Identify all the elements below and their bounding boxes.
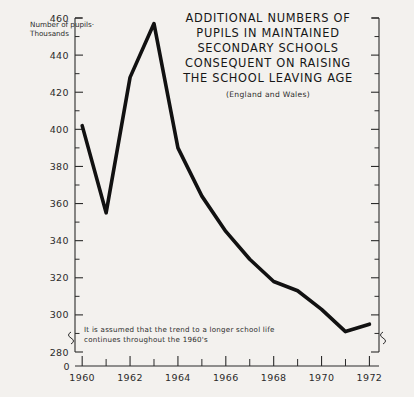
annotation-line-1: It is assumed that the trend to a longer…	[84, 325, 275, 334]
title-line-4: CONSEQUENT ON RAISING	[185, 56, 351, 70]
y-tick-label-440: 440	[50, 50, 69, 61]
y-axis-caption-line-1: Number of pupils·	[30, 20, 94, 29]
x-tick-label-1970: 1970	[309, 372, 335, 383]
y-tick-label-340: 340	[50, 235, 69, 246]
line-chart: 280300320340360380400420440460 0 Number …	[0, 0, 414, 397]
x-tick-label-1964: 1964	[165, 372, 191, 383]
title-line-5: THE SCHOOL LEAVING AGE	[182, 71, 353, 85]
title-line-2: PUPILS IN MAINTAINED	[196, 26, 339, 40]
y-tick-label-300: 300	[50, 309, 69, 320]
chart-container: 280300320340360380400420440460 0 Number …	[0, 0, 414, 397]
chart-subtitle: (England and Wales)	[226, 90, 310, 99]
y-tick-label-360: 360	[50, 198, 69, 209]
x-tick-label-1966: 1966	[213, 372, 239, 383]
y-axis-caption-line-2: Thousands	[29, 29, 69, 38]
x-tick-label-1960: 1960	[69, 372, 95, 383]
y-tick-label-280: 280	[50, 347, 69, 358]
y-tick-label-380: 380	[50, 161, 69, 172]
annotation-line-2: continues throughout the 1960's	[84, 335, 208, 344]
x-tick-label-1972: 1972	[357, 372, 383, 383]
y-tick-label-420: 420	[50, 87, 69, 98]
x-tick-label-1968: 1968	[261, 372, 287, 383]
title-line-3: SECONDARY SCHOOLS	[197, 41, 338, 55]
y-tick-label-320: 320	[50, 272, 69, 283]
x-tick-label-1962: 1962	[117, 372, 143, 383]
y-tick-label-400: 400	[50, 124, 69, 135]
y-axis-origin-label: 0	[64, 361, 70, 372]
title-line-1: ADDITIONAL NUMBERS OF	[186, 11, 351, 25]
